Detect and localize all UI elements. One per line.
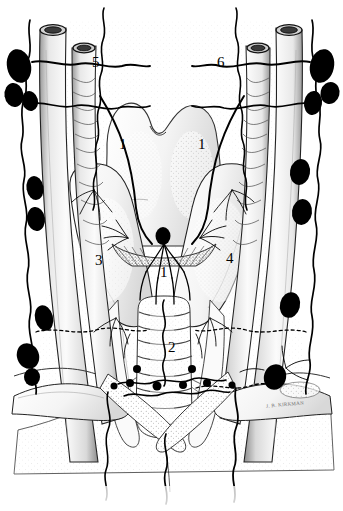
pretracheal-node — [153, 382, 162, 391]
label-3: 3 — [95, 253, 103, 268]
label-6: 6 — [217, 55, 225, 70]
pretracheal-node — [203, 379, 211, 387]
pretracheal-node — [179, 381, 187, 389]
prelaryngeal-node — [156, 227, 171, 245]
pretracheal-node — [133, 365, 141, 373]
label-5: 5 — [92, 55, 100, 70]
pretracheal-node — [126, 379, 134, 387]
label-1-center: 1 — [160, 265, 168, 280]
label-1-left: 1 — [119, 137, 127, 152]
pretracheal-node — [229, 382, 236, 389]
label-2: 2 — [168, 340, 176, 355]
lymph-node — [24, 368, 40, 386]
neck-anatomy-drawing — [0, 0, 343, 511]
pretracheal-node — [188, 365, 196, 373]
pretracheal-node — [111, 383, 118, 390]
label-1-right: 1 — [198, 137, 206, 152]
anatomical-illustration: 1 1 5 6 3 4 1 2 J. B. KIRKMAN — [0, 0, 343, 511]
label-4: 4 — [226, 251, 234, 266]
